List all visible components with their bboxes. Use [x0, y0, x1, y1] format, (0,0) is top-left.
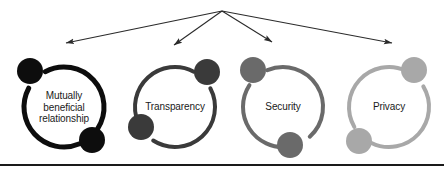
ring-arc-privacy-1 — [371, 86, 429, 147]
ring-arc-transparency-2 — [135, 67, 194, 123]
ring-dot-transparency-top-right — [194, 59, 220, 85]
ring-dot-mutually-beneficial-relationship-bottom-right — [79, 127, 105, 153]
arrow-group — [66, 11, 392, 45]
ring-arc-transparency-1 — [153, 88, 215, 147]
diagram-canvas: Mutually beneficial relationship Transpa… — [0, 0, 444, 173]
ring-dot-privacy-top-right — [401, 57, 427, 83]
ring-dot-security-bottom-right — [277, 132, 303, 158]
ring-dot-security-top-left — [240, 57, 266, 83]
ring-arc-mutually-beneficial-relationship-1 — [45, 67, 104, 129]
ring-dot-mutually-beneficial-relationship-top-left — [17, 58, 43, 84]
ring-arc-privacy-2 — [349, 67, 406, 127]
bottom-divider-rule — [0, 164, 444, 166]
ring-arc-mutually-beneficial-relationship-2 — [24, 88, 80, 147]
ring-dot-privacy-bottom-left — [346, 128, 372, 154]
ring-arc-security-1 — [267, 67, 323, 137]
ring-dot-transparency-bottom-left — [128, 114, 154, 140]
diagram-graphics — [0, 0, 444, 173]
